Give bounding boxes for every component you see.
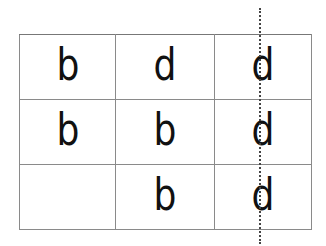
grid-cell: b xyxy=(116,165,215,230)
grid-cell: d xyxy=(215,165,312,230)
cell-letter: b xyxy=(56,43,79,87)
grid-cell: b xyxy=(20,35,116,100)
grid-cell: d xyxy=(215,100,312,165)
cell-letter: d xyxy=(252,108,275,152)
grid-row: b b d xyxy=(20,100,312,165)
letter-grid: b d d b b d b d xyxy=(19,34,312,230)
cell-letter: d xyxy=(154,43,177,87)
cell-letter: d xyxy=(252,43,275,87)
cell-letter: b xyxy=(154,108,177,152)
grid-cell: d xyxy=(116,35,215,100)
grid-cell-empty xyxy=(20,165,116,230)
cell-letter: d xyxy=(252,173,275,217)
grid-cell: b xyxy=(116,100,215,165)
grid-row: b d xyxy=(20,165,312,230)
cell-letter: b xyxy=(154,173,177,217)
grid-cell: d xyxy=(215,35,312,100)
dotted-mirror-line xyxy=(259,8,261,244)
grid-cell: b xyxy=(20,100,116,165)
cell-letter: b xyxy=(56,108,79,152)
grid-row: b d d xyxy=(20,35,312,100)
